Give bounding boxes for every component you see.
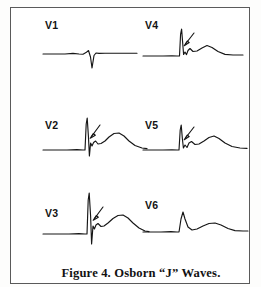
figure-page: V1 V4 V2 <box>0 0 261 287</box>
ecg-panel-v2: V2 <box>39 106 151 176</box>
ecg-panel-v4: V4 <box>139 16 251 82</box>
ecg-panel-v3: V3 <box>39 186 151 258</box>
ecg-panel-v5: V5 <box>139 106 251 176</box>
ecg-trace-v2 <box>39 106 151 176</box>
ecg-trace-v6 <box>139 186 251 258</box>
ecg-panel-v1: V1 <box>39 16 149 82</box>
figure-caption: Figure 4. Osborn “J” Waves. <box>23 266 259 281</box>
j-wave-arrow-v5 <box>184 127 194 140</box>
ecg-trace-v4 <box>139 16 251 82</box>
j-wave-arrow-v3 <box>93 207 103 220</box>
ecg-trace-v3 <box>39 186 151 258</box>
ecg-trace-v1 <box>39 16 149 82</box>
j-wave-arrow-v4 <box>184 33 194 46</box>
j-wave-arrow-v2 <box>90 125 100 138</box>
ecg-panel-v6: V6 <box>139 186 251 258</box>
figure-border: V1 V4 V2 <box>10 7 250 284</box>
ecg-trace-v5 <box>139 106 251 176</box>
